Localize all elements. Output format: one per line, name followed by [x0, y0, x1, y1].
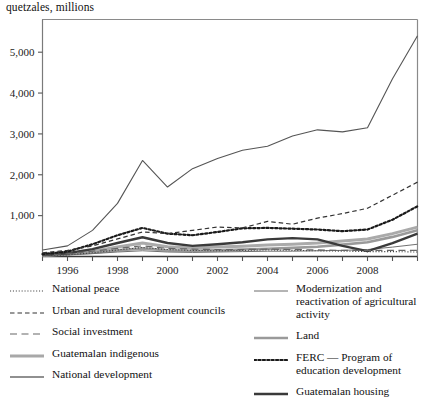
x-axis-tick-label: 2002 [207, 264, 229, 276]
legend-item[interactable]: National peace [8, 282, 248, 296]
legend-swatch-icon [8, 304, 48, 318]
legend-item-label: Social investment [48, 325, 133, 338]
legend-swatch-icon [8, 368, 48, 382]
x-axis-tick-label: 2006 [307, 264, 330, 276]
x-axis-tick-label: 2000 [157, 264, 180, 276]
legend-column-right: Modernization and reactivation of agricu… [252, 282, 436, 397]
series-line [43, 36, 418, 250]
legend-swatch-icon [8, 347, 48, 361]
legend-item-label: National development [48, 368, 152, 381]
x-axis-tick-label: 2004 [257, 264, 280, 276]
legend-item[interactable]: Land [252, 329, 436, 343]
chart-plot-area: 1,0002,0003,0004,0005,000199619982000200… [0, 0, 436, 282]
legend-item-label: Urban and rural development councils [48, 304, 225, 317]
chart-legend: National peaceUrban and rural developmen… [0, 282, 436, 394]
y-axis-tick-label: 3,000 [10, 128, 35, 140]
legend-item[interactable]: Guatemalan housing [252, 385, 436, 397]
legend-item-label: FERC — Program of education development [292, 351, 436, 377]
legend-item-label: Guatemalan housing [292, 385, 389, 397]
legend-item-label: Guatemalan indigenous [48, 347, 159, 360]
legend-swatch-icon [252, 385, 292, 397]
x-axis-tick-label: 1996 [57, 264, 80, 276]
x-axis-tick-label: 1998 [107, 264, 130, 276]
legend-swatch-icon [252, 282, 292, 296]
legend-column-left: National peaceUrban and rural developmen… [8, 282, 248, 390]
chart-container: quetzales, millions 1,0002,0003,0004,000… [0, 0, 436, 397]
y-axis-tick-label: 5,000 [10, 46, 35, 58]
legend-item-label: Land [292, 329, 319, 342]
legend-swatch-icon [252, 329, 292, 343]
y-axis-tick-label: 2,000 [10, 169, 35, 181]
x-axis-tick-label: 2008 [357, 264, 380, 276]
legend-swatch-icon [8, 325, 48, 339]
legend-item[interactable]: Modernization and reactivation of agricu… [252, 282, 436, 322]
legend-item[interactable]: Urban and rural development councils [8, 304, 248, 318]
legend-item[interactable]: FERC — Program of education development [252, 351, 436, 377]
legend-swatch-icon [8, 282, 48, 296]
y-axis-title: quetzales, millions [6, 1, 94, 13]
y-axis-tick-label: 4,000 [10, 87, 35, 99]
legend-item-label: National peace [48, 282, 119, 295]
legend-item[interactable]: National development [8, 368, 248, 382]
legend-item-label: Modernization and reactivation of agricu… [292, 282, 436, 322]
y-axis-tick-label: 1,000 [10, 209, 35, 221]
legend-item[interactable]: Social investment [8, 325, 248, 339]
legend-item[interactable]: Guatemalan indigenous [8, 347, 248, 361]
legend-swatch-icon [252, 351, 292, 365]
